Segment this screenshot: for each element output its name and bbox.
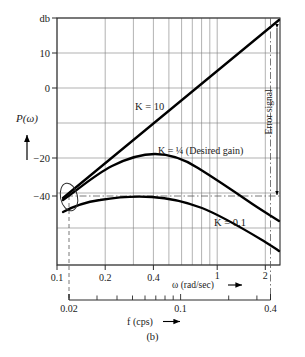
x-tick-0p1: 0.1 xyxy=(51,272,64,283)
y-axis-title: P(ω) xyxy=(15,112,38,125)
x-axis-f-line xyxy=(69,294,271,300)
f-tick-0p1: 0.1 xyxy=(174,303,187,314)
y-tick-10: 10 xyxy=(40,48,51,59)
x-axis-omega-labels: 0.1 0.2 0.4 1 2 xyxy=(51,270,268,283)
x-axis-omega-title: ω (rad/sec) xyxy=(172,280,214,291)
reference-lines xyxy=(66,18,282,300)
bode-magnitude-figure: Error signal db 10 0 −20 −40 P(ω) 0.1 0.… xyxy=(0,0,305,357)
y-tick-0: 0 xyxy=(45,83,50,94)
y-tick-labels: db 10 0 −20 −40 xyxy=(34,13,50,202)
curve-k10 xyxy=(63,20,279,198)
y-axis-ticks xyxy=(52,18,57,196)
x-axis-f-labels: 0.02 0.1 0.4 xyxy=(60,303,277,314)
curve-label-k10: K = 10 xyxy=(135,101,164,112)
x-axis-f-title-group: f (cps) xyxy=(127,316,180,328)
x-tick-1: 1 xyxy=(215,270,220,281)
x-tick-2: 2 xyxy=(263,270,268,281)
figure-caption: (b) xyxy=(0,331,305,342)
y-tick-neg20: −20 xyxy=(34,153,50,164)
curve-k-quarter xyxy=(63,154,279,221)
curve-label-k-desired: K = ¼ (Desired gain) xyxy=(158,145,243,157)
plot-svg: Error signal db 10 0 −20 −40 P(ω) 0.1 0.… xyxy=(0,0,305,357)
grid-horizontal xyxy=(57,18,280,265)
y-tick-db: db xyxy=(40,13,51,24)
error-signal-label: Error signal xyxy=(264,89,274,134)
x-axis-omega-title-group: ω (rad/sec) xyxy=(172,280,242,291)
curve-label-k01: K = 0.1 xyxy=(214,217,246,228)
x-axis-f-title: f (cps) xyxy=(127,316,153,328)
x-tick-0p4: 0.4 xyxy=(147,272,160,283)
x-tick-0p2: 0.2 xyxy=(99,272,112,283)
curve-k01 xyxy=(63,197,279,251)
f-tick-0p02: 0.02 xyxy=(60,303,78,314)
y-tick-neg40: −40 xyxy=(34,191,50,202)
x-axis-f-ticks xyxy=(69,294,271,300)
f-tick-0p4: 0.4 xyxy=(264,303,277,314)
x-axis-omega-ticks xyxy=(57,265,265,270)
